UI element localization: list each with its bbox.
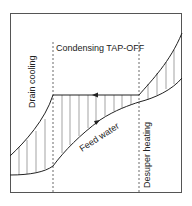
steam-flow-arrow-icon	[92, 93, 98, 98]
hatch-desuper-heating	[148, 50, 174, 100]
feed-water-label: Feed water	[78, 121, 121, 154]
heater-temperature-profile-diagram: Condensing TAP-OFF Drain cooling Desuper…	[0, 0, 192, 206]
desuper-heating-label: Desuper heating	[142, 122, 152, 188]
hatch-drain-cooling	[19, 119, 45, 175]
condensing-label: Condensing TAP-OFF	[56, 43, 145, 53]
drain-cooling-label: Drain cooling	[27, 55, 37, 108]
